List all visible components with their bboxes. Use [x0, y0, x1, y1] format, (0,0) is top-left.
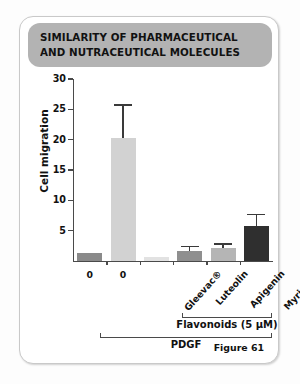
x-tick [240, 261, 241, 265]
bar [144, 257, 169, 261]
x-axis-label: 0 [109, 269, 137, 280]
x-axis-label: 0 [76, 269, 104, 280]
bars-layer [73, 79, 273, 261]
bar [77, 253, 102, 261]
error-bar [122, 104, 123, 138]
error-bar-cap [114, 104, 132, 105]
bracket-pdgf [100, 333, 272, 338]
y-tick-label: 25 [44, 104, 66, 113]
bar [244, 226, 269, 261]
y-tick-label: 30 [44, 74, 66, 83]
x-tick [140, 261, 141, 265]
x-tick [173, 261, 174, 265]
bar [177, 251, 202, 261]
bracket-flavonoids [182, 313, 272, 318]
chart-plot-area: Cell migration 51015202530 00Gleevac®Lut… [20, 17, 280, 365]
bracket-flavonoids-label: Flavonoids (5 µM) [160, 319, 294, 330]
y-tick-label: 15 [44, 165, 66, 174]
error-bar-cap [247, 214, 265, 215]
bar [111, 138, 136, 261]
y-tick-label: 5 [44, 226, 66, 235]
figure-card: SIMILARITY OF PHARMACEUTICAL AND NUTRACE… [19, 16, 279, 364]
y-tick-label: 10 [44, 195, 66, 204]
error-bar-cap [214, 243, 232, 244]
figure-page: SIMILARITY OF PHARMACEUTICAL AND NUTRACE… [0, 0, 300, 384]
x-tick [206, 261, 207, 265]
x-tick [106, 261, 107, 265]
x-axis-label: Gleevac® [182, 268, 224, 313]
y-tick-label: 20 [44, 135, 66, 144]
error-bar-cap [181, 246, 199, 247]
figure-caption: Figure 61 [214, 342, 264, 353]
bar [211, 248, 236, 261]
error-bar [256, 214, 257, 226]
